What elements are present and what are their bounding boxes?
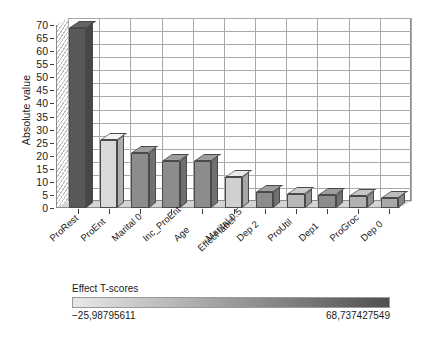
x-tick-label: Dep1 [297,221,321,244]
x-tick-label: ProEnt [79,217,108,244]
x-tick-label: Age [172,225,192,244]
legend-max-value: 68,737427549 [326,310,390,321]
x-tick-mark [140,209,141,214]
x-tick-mark [358,209,359,214]
x-tick-mark [389,209,390,214]
legend-scale-labels: −25,98795611 68,737427549 [72,310,390,324]
x-tick-mark [327,209,328,214]
x-tick-label: Dep 2 [235,219,261,244]
x-tick-label: ProRest [48,213,81,244]
x-tick-label: ProGroc [328,212,361,244]
chart-figure: Absolute value 0510152025303540455055606… [0,0,428,337]
x-tick-label: Marital 0 [110,212,144,244]
legend-title: Effect T-scores [72,283,390,294]
x-tick-mark [78,209,79,214]
legend-min-value: −25,98795611 [72,310,136,321]
x-tick-mark [109,209,110,214]
x-tick-mark [265,209,266,214]
color-legend: Effect T-scores −25,98795611 68,73742754… [72,283,390,324]
legend-gradient-bar [72,297,390,308]
x-tick-label: ProUtil [266,217,294,244]
x-tick-mark [296,209,297,214]
x-tick-label: Dep 0 [359,219,385,244]
x-axis-title: Effect label [196,215,238,254]
x-tick-mark [202,209,203,214]
